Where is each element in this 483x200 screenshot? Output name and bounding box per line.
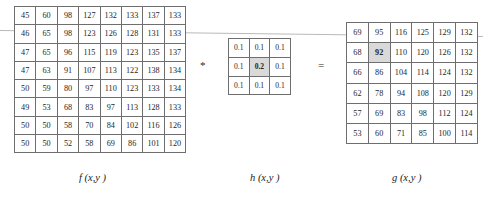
matrix-cell: 91 (57, 61, 78, 79)
matrix-cell: 97 (100, 98, 121, 116)
matrix-cell: 69 (347, 23, 369, 43)
matrix-row: 6686104114124132 (347, 63, 478, 83)
matrix-cell: 83 (390, 103, 412, 123)
matrix-cell: 98 (57, 7, 78, 25)
matrix-cell: 65 (36, 43, 57, 61)
matrix-output-g: 6995116125129132689211012012613266861041… (346, 22, 478, 144)
matrix-row: 476391107113122138134 (15, 61, 186, 79)
matrix-cell: 133 (143, 80, 164, 98)
matrix-cell: 114 (412, 63, 434, 83)
matrix-cell: 129 (434, 23, 456, 43)
matrix-cell: 124 (434, 63, 456, 83)
matrix-cell: 86 (368, 63, 390, 83)
matrix-cell: 123 (121, 43, 142, 61)
matrix-cell: 68 (57, 98, 78, 116)
matrix-cell: 128 (143, 98, 164, 116)
matrix-cell: 120 (412, 43, 434, 63)
matrix-cell: 133 (164, 98, 185, 116)
matrix-cell: 120 (164, 135, 185, 153)
matrix-row: 476596115119123135137 (15, 43, 186, 61)
matrix-cell: 115 (79, 43, 100, 61)
matrix-cell: 113 (121, 98, 142, 116)
matrix-cell: 57 (347, 103, 369, 123)
matrix-cell: 62 (347, 83, 369, 103)
matrix-cell: 68 (347, 43, 369, 63)
matrix-row: 0.10.10.1 (229, 76, 291, 95)
matrix-cell: 101 (143, 135, 164, 153)
matrix-cell: 129 (455, 83, 477, 103)
matrix-cell: 85 (412, 123, 434, 143)
matrix-cell: 126 (164, 116, 185, 134)
caption-kernel-h: h (x,y ) (250, 172, 279, 183)
matrix-cell: 132 (100, 7, 121, 25)
matrix-cell: 132 (455, 43, 477, 63)
matrix-cell: 113 (100, 61, 121, 79)
matrix-row: 505052586986101120 (15, 135, 186, 153)
matrix-cell: 97 (79, 80, 100, 98)
convolution-operator: * (200, 60, 206, 71)
matrix-row: 0.10.10.1 (229, 39, 291, 58)
matrix-cell: 122 (121, 61, 142, 79)
matrix-row: 6995116125129132 (347, 23, 478, 43)
matrix-cell: 108 (412, 83, 434, 103)
matrix-cell: 58 (57, 116, 78, 134)
matrix-cell: 0.2 (249, 57, 270, 76)
matrix-cell: 125 (412, 23, 434, 43)
matrix-cell: 98 (412, 103, 434, 123)
matrix-cell: 0.1 (249, 39, 270, 58)
matrix-cell: 133 (121, 7, 142, 25)
matrix-input-f: 4560981271321331371334665981231261281311… (14, 6, 186, 153)
matrix-row: 53607185100114 (347, 123, 478, 143)
matrix-cell: 128 (121, 25, 142, 43)
matrix-cell: 137 (143, 7, 164, 25)
matrix-cell: 110 (390, 43, 412, 63)
matrix-cell: 0.1 (270, 39, 291, 58)
matrix-row: 57698398112124 (347, 103, 478, 123)
matrix-cell: 133 (164, 25, 185, 43)
matrix-cell: 59 (36, 80, 57, 98)
matrix-cell: 96 (57, 43, 78, 61)
matrix-cell: 50 (15, 135, 36, 153)
matrix-row: 0.10.20.1 (229, 57, 291, 76)
matrix-cell: 50 (36, 135, 57, 153)
caption-input-f: f (x,y ) (79, 172, 106, 183)
matrix-cell: 53 (347, 123, 369, 143)
matrix-cell: 94 (390, 83, 412, 103)
matrix-cell: 71 (390, 123, 412, 143)
matrix-row: 50598097110123133134 (15, 80, 186, 98)
matrix-cell: 86 (121, 135, 142, 153)
matrix-cell: 47 (15, 43, 36, 61)
matrix-cell: 123 (121, 80, 142, 98)
matrix-cell: 65 (36, 25, 57, 43)
matrix-cell: 49 (15, 98, 36, 116)
matrix-cell: 126 (100, 25, 121, 43)
matrix-cell: 104 (390, 63, 412, 83)
matrix-cell: 119 (100, 43, 121, 61)
matrix-cell: 126 (434, 43, 456, 63)
matrix-cell: 138 (143, 61, 164, 79)
matrix-cell: 69 (368, 103, 390, 123)
matrix-cell: 92 (368, 43, 390, 63)
matrix-row: 456098127132133137133 (15, 7, 186, 25)
matrix-cell: 102 (121, 116, 142, 134)
matrix-cell: 0.1 (270, 57, 291, 76)
matrix-cell: 66 (347, 63, 369, 83)
matrix-cell: 124 (455, 103, 477, 123)
matrix-cell: 83 (79, 98, 100, 116)
matrix-cell: 70 (79, 116, 100, 134)
matrix-cell: 53 (36, 98, 57, 116)
matrix-cell: 45 (15, 7, 36, 25)
matrix-cell: 123 (79, 25, 100, 43)
matrix-cell: 0.1 (229, 76, 250, 95)
matrix-cell: 107 (79, 61, 100, 79)
matrix-cell: 52 (57, 135, 78, 153)
matrix-cell: 134 (164, 80, 185, 98)
matrix-cell: 60 (368, 123, 390, 143)
matrix-cell: 69 (100, 135, 121, 153)
matrix-row: 6892110120126132 (347, 43, 478, 63)
matrix-cell: 134 (164, 61, 185, 79)
matrix-cell: 131 (143, 25, 164, 43)
matrix-cell: 84 (100, 116, 121, 134)
matrix-cell: 0.1 (229, 57, 250, 76)
matrix-cell: 50 (36, 116, 57, 134)
